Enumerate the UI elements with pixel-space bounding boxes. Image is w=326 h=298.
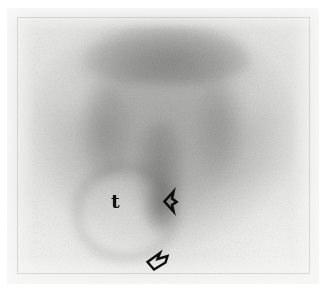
scan-plate [7,8,319,284]
scrotal-photopenic-area [85,174,166,251]
scintigraphic-field [7,8,319,284]
right-iliac-uptake [194,80,241,179]
scintigram-figure: t [0,0,326,298]
